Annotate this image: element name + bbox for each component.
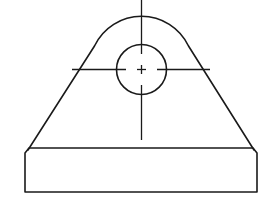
base-plate (25, 148, 257, 192)
technical-drawing (0, 0, 278, 214)
